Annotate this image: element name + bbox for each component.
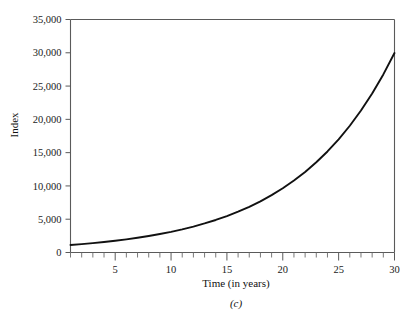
x-axis-title: Time (in years) [202, 277, 270, 290]
figure-caption: (c) [230, 297, 243, 310]
y-tick-label: 10,000 [33, 181, 62, 192]
figure-container: 05,00010,00015,00020,00025,00030,00035,0… [0, 0, 415, 318]
y-tick-label: 20,000 [33, 114, 62, 125]
x-tick-label: 15 [222, 264, 233, 275]
x-tick-label: 25 [333, 264, 344, 275]
y-tick-label: 30,000 [33, 47, 62, 58]
x-tick-label: 5 [113, 264, 118, 275]
y-tick-label: 0 [56, 247, 61, 258]
y-tick-label: 35,000 [33, 14, 62, 25]
x-tick-label: 20 [278, 264, 289, 275]
x-tick-label: 30 [389, 264, 400, 275]
chart-background [0, 0, 415, 318]
x-tick-label: 10 [166, 264, 177, 275]
exponential-growth-chart: 05,00010,00015,00020,00025,00030,00035,0… [0, 0, 415, 318]
y-axis-title: Index [8, 112, 20, 138]
y-tick-label: 15,000 [33, 147, 62, 158]
y-tick-label: 25,000 [33, 81, 62, 92]
y-tick-label: 5,000 [38, 214, 62, 225]
